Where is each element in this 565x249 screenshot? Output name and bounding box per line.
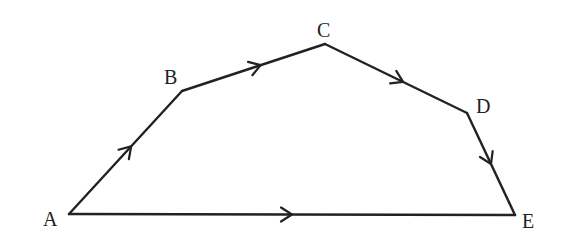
edge-bc (182, 44, 325, 91)
edge-ab (69, 91, 182, 214)
point-label-a: A (43, 208, 58, 230)
edge-cd (325, 44, 467, 113)
point-label-b: B (164, 66, 177, 88)
vector-path-diagram: A B C D E (0, 0, 565, 249)
point-label-d: D (476, 95, 490, 117)
edges-group (69, 44, 515, 221)
point-label-e: E (522, 210, 534, 232)
point-label-c: C (317, 19, 330, 41)
labels-group: A B C D E (43, 19, 534, 232)
